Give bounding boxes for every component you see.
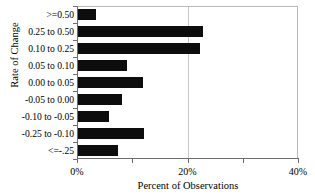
y-axis-tick	[73, 125, 77, 126]
bar	[77, 26, 203, 37]
y-axis-tick-label: 0.10 to 0.25	[16, 43, 74, 55]
y-axis-tick	[73, 142, 77, 143]
y-axis-tick	[73, 159, 77, 160]
y-axis-tick	[73, 91, 77, 92]
x-axis-tick	[188, 159, 189, 163]
y-axis-tick-label: 0.25 to 0.50	[16, 26, 74, 38]
y-axis-tick-label: >=0.50	[16, 9, 74, 21]
y-axis-line	[77, 6, 78, 159]
y-axis-tick-labels: >=0.500.25 to 0.500.10 to 0.250.05 to 0.…	[16, 6, 74, 159]
x-axis-title: Percent of Observations	[77, 179, 299, 193]
bar	[77, 9, 96, 20]
x-axis-tick	[132, 159, 133, 163]
y-axis-tick	[73, 57, 77, 58]
y-axis-tick	[73, 23, 77, 24]
x-axis-tick-label: 20%	[165, 165, 211, 178]
bar	[77, 128, 144, 139]
bar-chart: Rate of Change >=0.500.25 to 0.500.10 to…	[0, 0, 315, 196]
x-axis-tick-label: 0%	[54, 165, 100, 178]
x-axis-tick	[243, 159, 244, 163]
bar	[77, 94, 122, 105]
y-axis-tick-label: -0.25 to -0.10	[16, 128, 74, 140]
y-axis-tick	[73, 40, 77, 41]
bar	[77, 77, 143, 88]
bars-layer	[77, 6, 298, 159]
bar	[77, 145, 118, 156]
y-axis-tick-label: -0.05 to 0.00	[16, 94, 74, 106]
y-axis-tick	[73, 108, 77, 109]
y-axis-tick-label: 0.00 to 0.05	[16, 77, 74, 89]
y-axis-tick	[73, 6, 77, 7]
bar	[77, 60, 127, 71]
y-axis-tick	[73, 74, 77, 75]
x-axis-tick	[77, 159, 78, 163]
bar	[77, 43, 200, 54]
y-axis-tick-label: 0.05 to 0.10	[16, 60, 74, 72]
x-axis-tick-label: 40%	[275, 165, 315, 178]
bar	[77, 111, 109, 122]
y-axis-tick-label: <=-.25	[16, 145, 74, 157]
y-axis-tick-label: -0.10 to -0.05	[16, 111, 74, 123]
x-axis-tick	[298, 159, 299, 163]
